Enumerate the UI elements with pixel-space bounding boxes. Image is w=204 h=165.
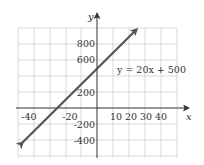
svg-text:-40: -40 [21, 111, 36, 122]
line-chart: y x 800 600 200 -200 -400 -40 -20 10 20 … [0, 0, 204, 165]
equation-label: y = 20x + 500 [116, 64, 186, 75]
svg-text:600: 600 [77, 54, 95, 65]
svg-text:20: 20 [125, 111, 137, 122]
svg-text:800: 800 [77, 38, 95, 49]
svg-text:30: 30 [140, 111, 152, 122]
y-tick-labels: 800 600 200 -200 -400 [74, 38, 95, 146]
svg-text:40: 40 [155, 111, 167, 122]
svg-text:10: 10 [110, 111, 122, 122]
y-axis-label: y [87, 11, 94, 22]
svg-text:-400: -400 [74, 135, 95, 146]
svg-text:200: 200 [77, 87, 95, 98]
svg-text:-20: -20 [62, 111, 77, 122]
x-axis-label: x [186, 111, 192, 122]
